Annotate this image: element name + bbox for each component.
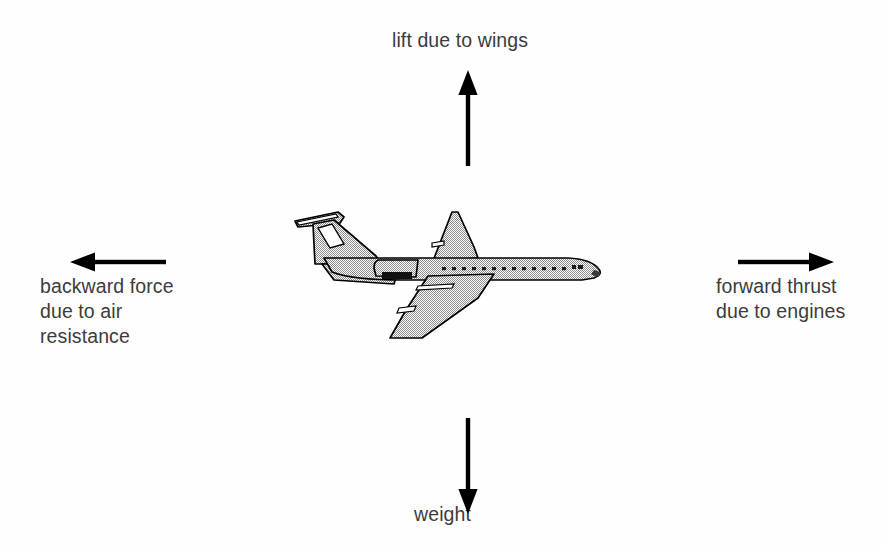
forward-thrust-label: forward thrust due to engines xyxy=(716,274,845,324)
lift-arrow-icon xyxy=(448,70,488,166)
near-wing xyxy=(390,274,494,338)
airliner-illustration xyxy=(282,198,612,358)
drag-arrow-icon xyxy=(70,246,166,278)
thrust-arrow-icon xyxy=(738,246,834,278)
far-wing xyxy=(433,212,478,261)
force-diagram-canvas: lift due to wings weight backward force … xyxy=(0,0,883,547)
lift-label: lift due to wings xyxy=(392,28,528,53)
weight-arrow-icon xyxy=(448,418,488,514)
backward-force-label: backward force due to air resistance xyxy=(40,274,174,349)
engine-exhaust xyxy=(382,272,412,279)
